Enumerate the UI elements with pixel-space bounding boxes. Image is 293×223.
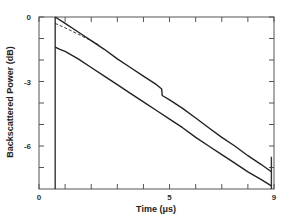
series-line [55, 47, 271, 186]
x-axis-label: Time (μs) [136, 204, 176, 214]
plot-frame [39, 17, 274, 189]
series-line [55, 17, 271, 172]
series-line [55, 23, 99, 45]
x-axis-ticks: 059 [37, 17, 277, 202]
vertical-markers [55, 17, 271, 189]
data-series [55, 17, 271, 186]
plot-border [39, 17, 274, 189]
backscattered-power-chart: 059 0-3-6 Time (μs) Backscattered Power … [0, 0, 293, 223]
x-tick-label: 5 [167, 193, 172, 202]
x-tick-label: 0 [37, 193, 42, 202]
y-tick-label: -6 [24, 142, 32, 151]
x-tick-label: 9 [272, 193, 277, 202]
y-axis-label: Backscattered Power (dB) [5, 46, 15, 158]
y-axis-ticks: 0-3-6 [24, 13, 274, 168]
y-tick-label: -3 [24, 78, 32, 87]
y-tick-label: 0 [27, 13, 32, 22]
